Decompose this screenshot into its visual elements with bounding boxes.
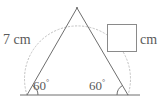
degree-symbol-left: ° xyxy=(46,78,49,87)
geometry-figure: 7 cm cm 60° 60° xyxy=(0,0,162,101)
side-length-label: 7 cm xyxy=(3,33,31,47)
angle-left-value: 60 xyxy=(33,78,46,93)
angle-right-value: 60 xyxy=(89,78,102,93)
unit-label: cm xyxy=(140,33,157,47)
angle-marker-right xyxy=(117,86,123,96)
degree-symbol-right: ° xyxy=(102,78,105,87)
figure-canvas xyxy=(0,0,162,101)
apex-vertex-marker xyxy=(76,7,78,9)
angle-left-label: 60° xyxy=(33,79,49,92)
angle-right-label: 60° xyxy=(89,79,105,92)
answer-input-box[interactable] xyxy=(107,24,137,52)
